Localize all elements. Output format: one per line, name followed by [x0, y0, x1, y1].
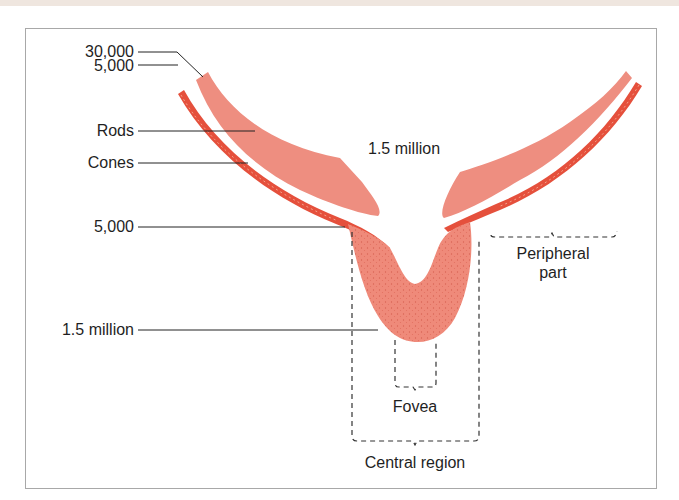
label-cones: Cones [88, 155, 134, 171]
label-rods: Rods [97, 123, 134, 139]
label-fovea: Fovea [375, 399, 455, 415]
label-central-region: Central region [345, 455, 485, 471]
label-5000-top: 5,000 [94, 58, 134, 74]
label-peripheral: Peripheral [497, 246, 609, 262]
rods-layer-right [442, 71, 632, 218]
label-center-density: 1.5 million [368, 141, 440, 157]
label-5000-central: 5,000 [94, 219, 134, 235]
label-1.5-million: 1.5 million [62, 322, 134, 338]
label-peripheral-part: part [497, 265, 609, 281]
fovea-pit [348, 222, 471, 342]
peripheral-bracket [491, 231, 617, 237]
fovea-bracket [395, 340, 436, 390]
